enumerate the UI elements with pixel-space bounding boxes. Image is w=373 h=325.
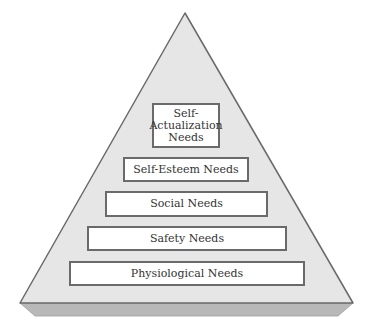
pyramid-base-slab: [20, 303, 353, 316]
tier-label-line: Needs: [149, 132, 222, 144]
tier-label: Physiological Needs: [131, 268, 243, 280]
tier-label-line: Actualization: [149, 120, 222, 132]
tier-label: Safety Needs: [150, 233, 224, 245]
tier-self-esteem: Self-Esteem Needs: [123, 157, 249, 182]
tier-safety: Safety Needs: [87, 226, 287, 251]
tier-label: Self-Esteem Needs: [133, 164, 238, 176]
tier-label: Social Needs: [150, 198, 223, 210]
tier-label-line: Self-: [149, 108, 222, 120]
tier-social: Social Needs: [105, 191, 268, 217]
tier-label: Self- Actualization Needs: [149, 108, 222, 144]
tier-self-actualization: Self- Actualization Needs: [152, 103, 220, 148]
tier-physiological: Physiological Needs: [69, 261, 305, 286]
